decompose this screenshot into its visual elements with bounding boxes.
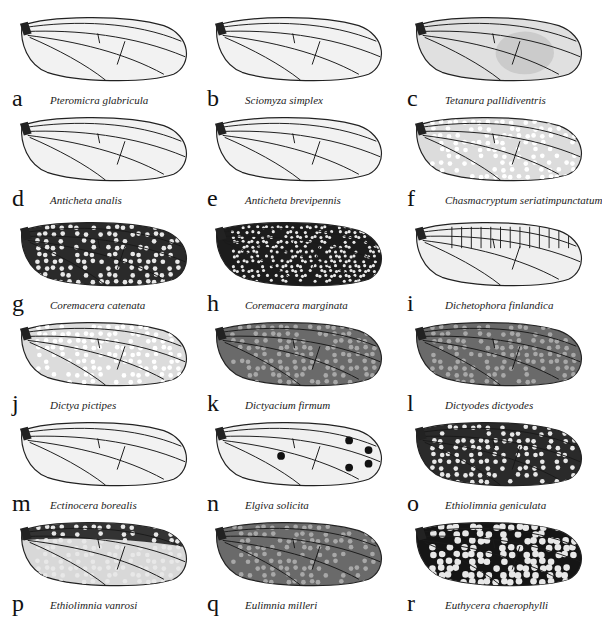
panel-letter: k <box>207 391 219 415</box>
panel-letter: d <box>12 186 24 210</box>
wing-panel-a: aPteromicra glabricula <box>10 10 190 115</box>
wing-panel-m: mEctinocera borealis <box>10 415 190 520</box>
wing-panel-d: dAnticheta analis <box>10 110 190 215</box>
wing-image <box>213 114 388 184</box>
wing-panel-l: lDictyodes dictyodes <box>405 315 585 420</box>
panel-letter: h <box>207 291 219 315</box>
panel-letter: o <box>407 491 419 515</box>
wing-panel-e: eAnticheta brevipennis <box>205 110 385 215</box>
wing-panel-j: jDictya pictipes <box>10 315 190 420</box>
wing-image <box>213 319 388 389</box>
species-name: Pteromicra glabricula <box>50 94 148 106</box>
wing-image <box>213 519 388 589</box>
panel-letter: m <box>12 491 31 515</box>
wing-panel-h: hCoremacera marginata <box>205 215 385 320</box>
species-name: Tetanura pallidiventris <box>445 94 546 106</box>
wing-panel-k: kDictyacium firmum <box>205 315 385 420</box>
wing-image <box>18 419 193 489</box>
wing-panel-f: fChasmacryptum seriatimpunctatum <box>405 110 585 215</box>
wing-panel-o: oEthiolimnia geniculata <box>405 415 585 520</box>
wing-panel-b: bSciomyza simplex <box>205 10 385 115</box>
species-name: Anticheta analis <box>50 194 122 206</box>
species-name: Dictyacium firmum <box>245 399 330 411</box>
species-name: Ethiolimnia vanrosi <box>50 599 137 611</box>
wing-panel-q: qEulimnia milleri <box>205 515 385 620</box>
wing-image <box>213 219 388 289</box>
wing-panel-c: cTetanura pallidiventris <box>405 10 585 115</box>
panel-letter: i <box>407 291 414 315</box>
panel-letter: n <box>207 491 219 515</box>
species-name: Euthycera chaerophylli <box>445 599 548 611</box>
wing-image <box>413 519 588 589</box>
wing-panel-n: nElgiva solicita <box>205 415 385 520</box>
panel-letter: j <box>12 391 19 415</box>
wing-image <box>18 219 193 289</box>
species-name: Coremacera marginata <box>245 299 348 311</box>
panel-letter: r <box>407 591 415 615</box>
panel-letter: c <box>407 86 418 110</box>
panel-letter: f <box>407 186 415 210</box>
panel-letter: a <box>12 86 23 110</box>
panel-letter: p <box>12 591 24 615</box>
wing-image <box>413 319 588 389</box>
panel-letter: l <box>407 391 414 415</box>
wing-image <box>413 419 588 489</box>
panel-letter: b <box>207 86 219 110</box>
wing-image <box>213 14 388 84</box>
wing-panel-r: rEuthycera chaerophylli <box>405 515 585 620</box>
wing-image <box>18 14 193 84</box>
wing-image <box>213 419 388 489</box>
species-name: Eulimnia milleri <box>245 599 317 611</box>
species-name: Chasmacryptum seriatimpunctatum <box>445 194 602 206</box>
species-name: Dichetophora finlandica <box>445 299 553 311</box>
wing-image <box>18 114 193 184</box>
species-name: Dictya pictipes <box>50 399 116 411</box>
species-name: Coremacera catenata <box>50 299 145 311</box>
wing-panel-i: iDichetophora finlandica <box>405 215 585 320</box>
wing-image <box>18 519 193 589</box>
species-name: Anticheta brevipennis <box>245 194 341 206</box>
wing-image <box>413 114 588 184</box>
species-name: Ethiolimnia geniculata <box>445 499 546 511</box>
wing-image <box>413 14 588 84</box>
wing-panel-p: pEthiolimnia vanrosi <box>10 515 190 620</box>
wing-image <box>413 219 588 289</box>
panel-letter: g <box>12 291 24 315</box>
panel-letter: q <box>207 591 219 615</box>
panel-letter: e <box>207 186 218 210</box>
species-name: Sciomyza simplex <box>245 94 323 106</box>
wing-image <box>18 319 193 389</box>
species-name: Ectinocera borealis <box>50 499 137 511</box>
species-name: Elgiva solicita <box>245 499 309 511</box>
wing-panel-g: gCoremacera catenata <box>10 215 190 320</box>
species-name: Dictyodes dictyodes <box>445 399 533 411</box>
